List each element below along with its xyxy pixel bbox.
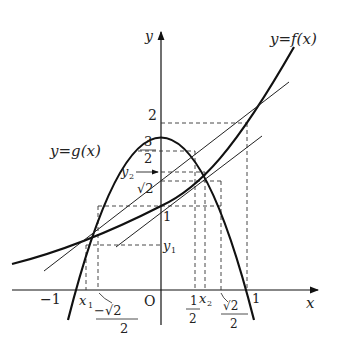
x-tick-neg-sqrt2-den: 2 <box>120 321 128 336</box>
x-tick-x1: x <box>79 293 87 308</box>
x-tick-neg-sqrt2-num: −√2 <box>94 303 121 318</box>
origin-label: O <box>144 293 155 309</box>
label-g: y=g(x) <box>49 142 101 160</box>
x-tick-sqrt2-den: 2 <box>230 317 238 331</box>
y-tick-3-den: 2 <box>144 151 152 166</box>
y-tick-y2: y <box>120 164 129 179</box>
x-tick-neg1: −1 <box>40 291 61 307</box>
y-tick-3-num: 3 <box>144 134 152 149</box>
y-tick-1: 1 <box>163 209 171 224</box>
x-tick-x2: x <box>199 291 207 306</box>
axis-label-x: x <box>306 294 315 312</box>
x-tick-half-num: 1 <box>190 294 198 308</box>
y-tick-2: 2 <box>148 107 157 123</box>
axis-label-y: y <box>144 28 154 44</box>
y-tick-sqrt2: √2 <box>137 181 154 196</box>
x-tick-half-den: 2 <box>189 312 197 326</box>
label-f: y=f(x) <box>269 30 317 48</box>
x-tick-1: 1 <box>252 291 260 306</box>
graph-canvas: y=f(x) y=g(x) y x O 2 3 2 y 2 √2 1 y 1 −… <box>0 0 345 347</box>
y-tick-y1: y <box>162 238 171 253</box>
x-tick-sqrt2-num: √2 <box>223 299 238 313</box>
x-tick-x2-sub: 2 <box>207 299 212 308</box>
pointer-neg-sqrt2 <box>99 293 112 303</box>
function-graph-diagram: y=f(x) y=g(x) y x O 2 3 2 y 2 √2 1 y 1 −… <box>0 0 345 347</box>
y-tick-y1-sub: 1 <box>171 246 176 255</box>
dashed-guides <box>86 123 247 290</box>
x-tick-x1-sub: 1 <box>88 301 93 310</box>
y-tick-y2-sub: 2 <box>129 172 134 181</box>
